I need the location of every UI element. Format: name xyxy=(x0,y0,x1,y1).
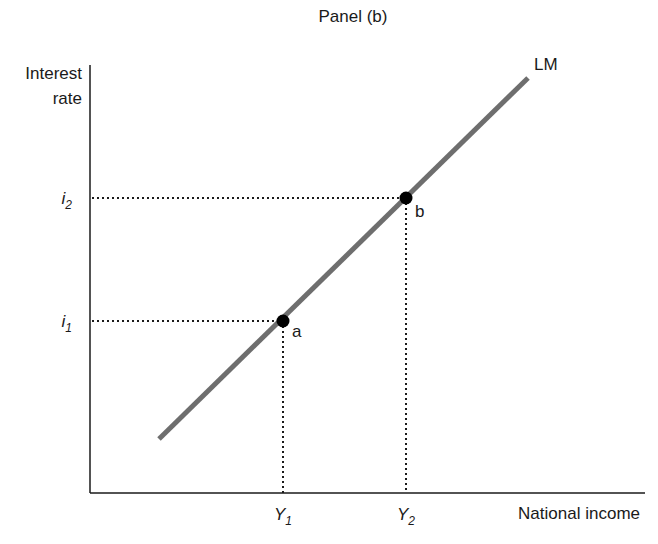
y-axis-label-line1: Interest xyxy=(25,64,82,83)
x-tick-y1: Y1 xyxy=(274,505,292,528)
lm-label: LM xyxy=(534,55,558,74)
lm-curve xyxy=(159,78,528,439)
x-axis-label: National income xyxy=(518,504,640,523)
chart: Panel (b) Interest rate National income … xyxy=(0,0,658,544)
point-b xyxy=(400,192,413,205)
y-tick-i2: i2 xyxy=(62,189,73,212)
point-a-label: a xyxy=(292,322,302,341)
point-a xyxy=(277,315,290,328)
chart-title: Panel (b) xyxy=(319,7,388,26)
point-b-label: b xyxy=(415,202,424,221)
x-tick-y2: Y2 xyxy=(397,505,415,528)
y-axis-label-line2: rate xyxy=(53,89,82,108)
y-tick-i1: i1 xyxy=(62,312,72,335)
